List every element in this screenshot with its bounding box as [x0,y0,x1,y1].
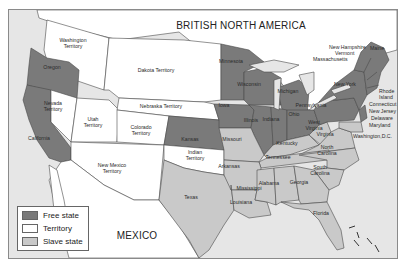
label-connecticut: Connecticut [369,101,396,107]
legend-label: Free state [43,211,79,220]
label-south-carolina: South Carolina [309,164,331,176]
label-washington: Washington Territory [58,37,88,49]
label-delaware: Delaware [371,115,393,121]
label-california: California [28,135,50,141]
label-dakota: Dakota Territory [138,67,175,73]
label-rhode-island: Rhode Island [379,88,395,100]
label-michigan: Michigan [278,88,299,94]
label-nevada: Nevada Territory [41,100,65,112]
label-virginia: Virginia [316,131,333,137]
label-texas: Texas [184,194,198,200]
label-indian: Indian Territory [182,149,208,161]
label-georgia: Georgia [290,179,308,185]
territory-swatch [22,224,38,233]
label-north-carolina: North Carolina [316,144,338,156]
label-utah: Utah Territory [81,116,105,128]
label-missouri: Missouri [222,136,241,142]
label-new-mexico: New Mexico Territory [96,162,128,174]
label-west-virginia: West Virginia [305,119,323,131]
label-indiana: Indiana [262,116,279,122]
label-massachusetts: Massachusetts [313,56,348,62]
label-new-york: New York [334,81,356,87]
british-north-america-label: BRITISH NORTH AMERICA [176,23,306,29]
free-state-swatch [22,211,38,220]
label-minnesota: Minnesota [219,58,243,64]
legend-item-slave-state: Slave state [22,236,83,246]
label-colorado: Colorado Territory [128,124,154,136]
label-pennsylvania: Pennsylvania [296,102,327,108]
label-arkansas: Arkansas [218,163,240,169]
label-florida: Florida [313,210,329,216]
map-legend: Free state Territory Slave state [17,206,89,251]
legend-item-free-state: Free state [22,210,79,220]
label-maine: Maine [370,45,384,51]
label-washington-dc: Washington,D.C. [353,133,392,139]
kansas [164,116,224,150]
label-tennessee: Tennessee [265,154,290,160]
legend-item-territory: Territory [22,223,72,233]
label-kansas: Kansas [181,136,198,142]
label-kentucky: Kentucky [276,140,297,146]
label-ohio: Ohio [289,111,300,117]
legend-label: Territory [43,224,72,233]
label-oregon: Oregon [43,64,60,70]
label-alabama: Alabama [259,180,279,186]
slave-state-swatch [22,237,38,246]
mexico-label: MEXICO [117,233,158,239]
label-illinois: Illinois [244,117,258,123]
bahamas-islands [349,226,379,252]
label-iowa: Iowa [219,102,230,108]
label-louisiana: Louisiana [230,199,252,205]
label-nebraska: Nebraska Territory [140,103,182,109]
label-maryland: Maryland [369,122,390,128]
label-new-jersey: New Jersey [369,108,396,114]
legend-label: Slave state [43,237,83,246]
label-wisconsin: Wisconsin [237,81,261,87]
